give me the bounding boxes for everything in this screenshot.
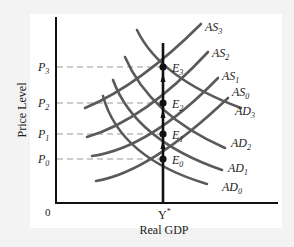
origin-label: 0 [45, 206, 51, 218]
as1-label: AS1 [221, 69, 239, 85]
p0-label: P0 [37, 152, 49, 168]
as-labels: AS3 AS2 AS1 AS0 [204, 20, 249, 101]
ad2-label: AD2 [230, 136, 251, 152]
price-level-labels: P3 P2 P1 P0 [37, 60, 49, 168]
arrow-up-icon [161, 73, 166, 82]
e3-label: E3 [171, 61, 183, 77]
ad0-curve [103, 96, 207, 184]
ad3-label: AD3 [234, 104, 255, 120]
ad1-label: AD1 [227, 161, 248, 177]
y-axis-label: Price Level [15, 82, 29, 138]
potential-output-label: Y* [158, 207, 171, 222]
e2-label: E2 [171, 97, 183, 113]
e0-point [159, 155, 166, 162]
e1-point [159, 130, 166, 137]
p3-label: P3 [37, 60, 49, 76]
p1-label: P1 [37, 127, 49, 143]
e1-label: E1 [171, 128, 183, 144]
e2-point [159, 99, 166, 106]
x-axis-label: Real GDP [140, 223, 189, 237]
as0-label: AS0 [231, 85, 249, 101]
p2-label: P2 [37, 96, 49, 112]
e0-label: E0 [171, 153, 183, 169]
as-ad-diagram: E3 E2 E1 E0 AS3 AS2 AS1 AS0 AD3 AD2 AD1 … [0, 0, 294, 247]
as2-label: AS2 [211, 46, 229, 62]
ad0-label: AD0 [221, 180, 242, 196]
e3-point [159, 63, 166, 70]
as3-label: AS3 [204, 20, 222, 36]
diagram-stage: E3 E2 E1 E0 AS3 AS2 AS1 AS0 AD3 AD2 AD1 … [0, 0, 294, 247]
ad-labels: AD3 AD2 AD1 AD0 [221, 104, 255, 196]
